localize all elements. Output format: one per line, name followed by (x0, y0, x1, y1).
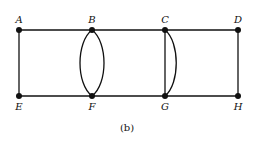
figure-caption: (b) (120, 122, 134, 133)
node-labels: A B C D E F G H (14, 14, 242, 112)
edge-b-f-left (80, 30, 92, 96)
label-d: D (233, 14, 242, 25)
label-b: B (87, 14, 95, 25)
node-h (235, 93, 241, 99)
node-d (235, 27, 241, 33)
graph-diagram: A B C D E F G H (b) (0, 0, 253, 143)
label-g: G (161, 101, 169, 112)
label-c: C (161, 14, 169, 25)
node-f (89, 93, 95, 99)
node-c (162, 27, 168, 33)
label-f: F (88, 101, 97, 112)
nodes (16, 27, 241, 99)
label-h: H (233, 101, 243, 112)
edge-c-g-curve (165, 30, 176, 96)
node-g (162, 93, 168, 99)
node-a (16, 27, 22, 33)
node-b (89, 27, 95, 33)
node-e (16, 93, 22, 99)
label-e: E (14, 101, 23, 112)
edge-b-f-right (92, 30, 104, 96)
edges (19, 30, 238, 96)
label-a: A (14, 14, 22, 25)
